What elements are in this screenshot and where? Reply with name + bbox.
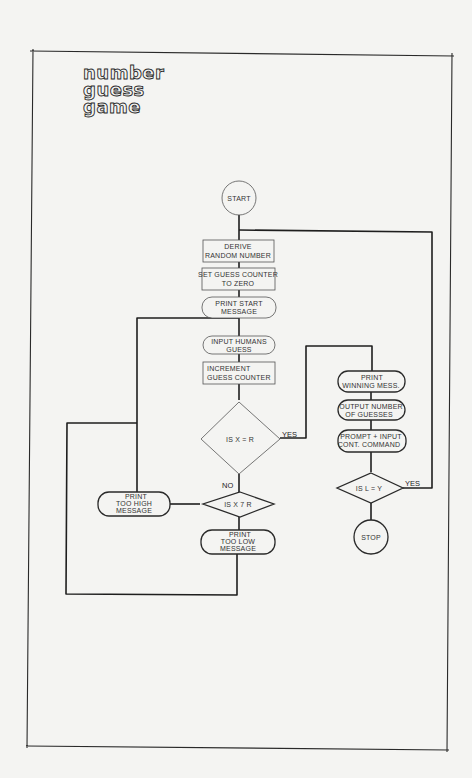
print-start-line-1: PRINT START [215, 300, 263, 307]
output-count-line-1: OUTPUT NUMBER [339, 403, 403, 410]
decision-greater-label: IS X 7 R [224, 501, 252, 508]
set-counter-line-1: SET GUESS COUNTER [198, 271, 278, 278]
label-continue-yes: YES [405, 479, 420, 488]
start-label: START [227, 195, 251, 202]
node-increment[interactable]: INCREMENT GUESS COUNTER [203, 362, 275, 384]
decision-continue-label: IS L = Y [356, 485, 382, 492]
decision-equal-label: IS X = R [226, 436, 254, 443]
node-too-low[interactable]: PRINT TOO LOW MESSAGE [201, 530, 275, 554]
stop-label: STOP [361, 534, 381, 541]
flowchart-canvas: number guess game S [0, 0, 472, 778]
node-decision-greater[interactable]: IS X 7 R [203, 492, 274, 517]
node-start[interactable]: START [222, 181, 256, 215]
label-equal-no: NO [222, 481, 233, 490]
title: number guess game [83, 62, 164, 117]
node-derive[interactable]: DERIVE RANDOM NUMBER [203, 240, 274, 262]
input-guess-line-1: INPUT HUMANS [211, 338, 267, 345]
node-too-high[interactable]: PRINT TOO HIGH MESSAGE [98, 492, 170, 516]
increment-line-1: INCREMENT [207, 365, 251, 372]
title-line-3: game [83, 96, 141, 117]
winning-line-2: WINNING MESS. [342, 382, 399, 389]
too-low-line-2: TOO LOW [221, 538, 256, 545]
too-low-line-3: MESSAGE [220, 545, 256, 552]
node-output-count[interactable]: OUTPUT NUMBER OF GUESSES [338, 400, 405, 420]
too-low-line-1: PRINT [229, 531, 252, 538]
node-decision-continue[interactable]: IS L = Y [337, 473, 403, 503]
node-input-guess[interactable]: INPUT HUMANS GUESS [203, 336, 275, 354]
winning-line-1: PRINT [361, 374, 384, 381]
print-start-line-2: MESSAGE [221, 308, 257, 315]
too-high-line-3: MESSAGE [116, 507, 152, 514]
set-counter-line-2: TO ZERO [222, 280, 255, 287]
increment-line-2: GUESS COUNTER [207, 374, 271, 381]
too-high-line-1: PRINT [125, 493, 148, 500]
label-equal-yes: YES [282, 430, 297, 439]
node-print-start[interactable]: PRINT START MESSAGE [202, 297, 276, 318]
node-decision-equal[interactable]: IS X = R [201, 402, 280, 474]
too-high-line-2: TOO HIGH [116, 500, 152, 507]
node-stop[interactable]: STOP [354, 520, 388, 554]
output-count-line-2: OF GUESSES [345, 411, 393, 418]
prompt-line-2: CONT. COMMAND [338, 441, 401, 448]
node-set-counter[interactable]: SET GUESS COUNTER TO ZERO [198, 268, 278, 290]
node-winning[interactable]: PRINT WINNING MESS. [338, 371, 405, 392]
derive-line-1: DERIVE [224, 243, 251, 250]
prompt-line-1: PROMPT + INPUT [340, 433, 402, 440]
node-prompt[interactable]: PROMPT + INPUT CONT. COMMAND [338, 430, 406, 452]
input-guess-line-2: GUESS [226, 346, 252, 353]
derive-line-2: RANDOM NUMBER [205, 252, 271, 259]
